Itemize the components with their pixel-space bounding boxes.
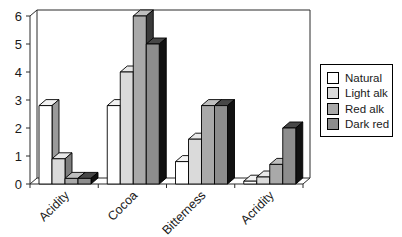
legend-swatch-icon bbox=[327, 103, 339, 115]
x-label-acidity: Acidity bbox=[36, 188, 72, 224]
legend-item-light-alk: Light alk bbox=[327, 86, 389, 102]
y-tick-label: 1 bbox=[15, 149, 22, 164]
y-tick-label: 2 bbox=[15, 121, 22, 136]
y-tick-label: 0 bbox=[15, 177, 22, 192]
legend-item-dark-red: Dark red bbox=[327, 117, 389, 133]
legend-swatch-icon bbox=[327, 72, 339, 84]
legend-swatch-icon bbox=[327, 87, 339, 99]
legend-label: Natural bbox=[345, 72, 382, 84]
y-tick-label: 4 bbox=[15, 65, 22, 80]
y-tick-label: 3 bbox=[15, 93, 22, 108]
x-label-acridity: Acridity bbox=[238, 188, 277, 227]
legend-item-red-alk: Red alk bbox=[327, 101, 389, 117]
bar-dark-red-acridity bbox=[283, 122, 303, 184]
legend: NaturalLight alkRed alkDark red bbox=[320, 64, 393, 137]
x-axis bbox=[30, 184, 303, 188]
bar-dark-red-cocoa bbox=[146, 38, 166, 184]
x-label-cocoa: Cocoa bbox=[105, 188, 140, 223]
legend-item-natural: Natural bbox=[327, 70, 389, 86]
legend-label: Red alk bbox=[345, 103, 384, 115]
x-label-bitterness: Bitterness bbox=[159, 188, 208, 237]
legend-swatch-icon bbox=[327, 118, 339, 130]
bar-dark-red-bitterness bbox=[215, 100, 235, 184]
y-tick-label: 5 bbox=[15, 37, 22, 52]
y-axis: 0123456 bbox=[15, 9, 37, 192]
legend-label: Light alk bbox=[345, 87, 388, 99]
y-tick-label: 6 bbox=[15, 9, 22, 24]
chart-figure: 0123456AcidityCocoaBitternessAcridity Na… bbox=[0, 0, 402, 237]
bars bbox=[39, 10, 303, 184]
legend-label: Dark red bbox=[345, 118, 389, 130]
x-axis-labels: AcidityCocoaBitternessAcridity bbox=[36, 188, 277, 237]
